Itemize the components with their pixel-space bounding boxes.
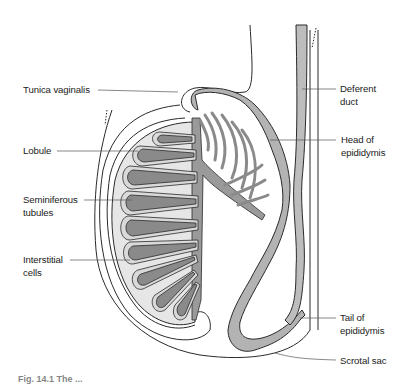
label-text: cells xyxy=(23,267,63,280)
label-text: Lobule xyxy=(23,145,51,158)
label-text: Scrotal sac xyxy=(340,355,386,368)
label-head-of-epididymis: Head of epididymis xyxy=(341,134,385,159)
label-text: Deferent xyxy=(340,83,376,96)
label-text: epididymis xyxy=(340,325,384,338)
label-text: tubules xyxy=(23,207,78,220)
label-tunica-vaginalis: Tunica vaginalis xyxy=(23,84,90,97)
epididymis xyxy=(191,88,305,351)
label-scrotal-sac: Scrotal sac xyxy=(340,355,386,368)
label-deferent-duct: Deferent duct xyxy=(340,83,376,108)
label-lobule: Lobule xyxy=(23,145,51,158)
label-interstitial-cells: Interstitial cells xyxy=(23,254,63,279)
lobule xyxy=(153,132,196,146)
label-text: duct xyxy=(340,96,376,109)
label-text: Seminiferous xyxy=(23,194,78,207)
label-tail-of-epididymis: Tail of epididymis xyxy=(340,312,384,337)
label-text: Tail of xyxy=(340,312,384,325)
figure-caption: Fig. 14.1 The ... xyxy=(18,374,83,384)
label-text: epididymis xyxy=(341,147,385,160)
label-seminiferous-tubules: Seminiferous tubules xyxy=(23,194,78,219)
dotted-edges xyxy=(105,28,316,125)
label-text: Interstitial xyxy=(23,254,63,267)
label-text: Head of xyxy=(341,134,385,147)
label-text: Tunica vaginalis xyxy=(23,84,90,97)
